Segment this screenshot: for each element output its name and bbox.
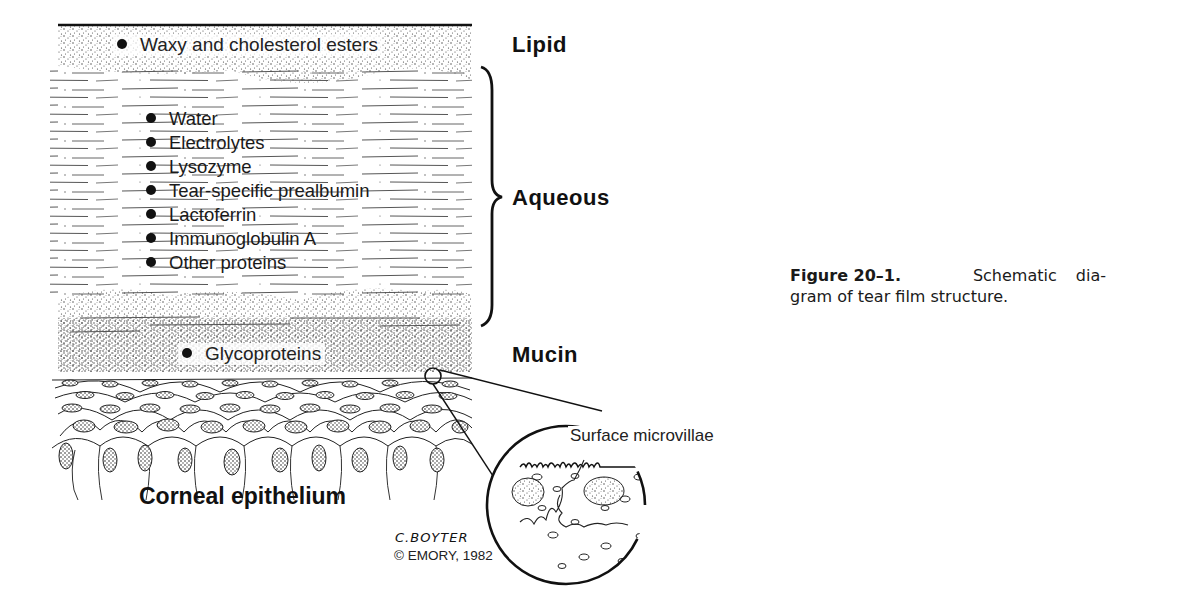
bullet-icon [146, 209, 156, 219]
lipid-component: Waxy and cholesterol esters [113, 34, 382, 56]
mucin-component: Glycoproteins [178, 343, 325, 365]
bullet-icon [146, 257, 156, 267]
mucin-component-label: Glycoproteins [205, 343, 321, 364]
bullet-icon [146, 113, 156, 123]
artist-signature: C.BOYTER [395, 530, 469, 545]
bullet-icon [117, 39, 127, 49]
layer-label-aqueous: Aqueous [512, 185, 610, 211]
list-item: Electrolytes [146, 133, 265, 153]
bullet-icon [146, 185, 156, 195]
bullet-icon [146, 233, 156, 243]
copyright-notice: © EMORY, 1982 [394, 548, 493, 563]
layer-label-mucin: Mucin [512, 342, 578, 368]
caption-line-1-text: Schematic dia- [973, 265, 1106, 286]
inset-label: Surface microvillae [568, 426, 716, 446]
caption-line-1: Figure 20–1. Schematic dia- [790, 265, 1106, 286]
layer-label-lipid: Lipid [512, 32, 567, 58]
list-item: Lysozyme [146, 157, 252, 177]
list-item: Immunoglobulin A [146, 229, 316, 249]
caption-figure-label: Figure 20–1. [790, 265, 901, 286]
bullet-icon [146, 161, 156, 171]
bullet-icon [146, 137, 156, 147]
list-item: Lactoferrin [146, 205, 256, 225]
list-item: Water [146, 109, 218, 129]
list-item: Other proteins [146, 253, 286, 273]
aqueous-bracket [481, 67, 502, 326]
figure-caption: Figure 20–1. Schematic dia- gram of tear… [790, 265, 1140, 307]
bullet-icon [182, 348, 192, 358]
tissue-label: Corneal epithelium [139, 483, 346, 510]
lipid-component-label: Waxy and cholesterol esters [140, 34, 378, 55]
list-item: Tear-specific prealbumin [146, 181, 370, 201]
caption-line-2: gram of tear film structure. [790, 286, 1140, 307]
